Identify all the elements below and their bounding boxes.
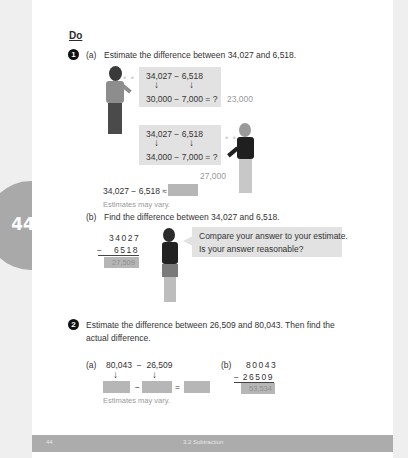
boy-rounded-expression: 30,000 − 7,000 = ? — [146, 94, 217, 104]
arrow-down-icon: ↓ — [113, 369, 118, 380]
q2a-estimate-box[interactable] — [184, 381, 210, 393]
estimates-note: Estimates may vary. — [103, 396, 170, 405]
arrow-down-icon: ↓ — [189, 79, 194, 90]
q2-prompt-line-2: actual difference. — [86, 333, 151, 343]
q1b-answer: 27,509 — [112, 258, 135, 267]
q1b-label: (b) — [86, 212, 96, 222]
footer-section-title: 3.2 Subtraction — [183, 439, 223, 445]
equals-sign: = — [175, 382, 180, 392]
estimate-equation: 34,027 − 6,518 ≈ — [103, 186, 167, 196]
q2b-answer: 53,534 — [249, 384, 272, 393]
arrow-down-icon: ↓ — [154, 137, 159, 148]
q1a-label: (a) — [86, 50, 96, 60]
q1a-prompt: Estimate the difference between 34,027 a… — [104, 50, 296, 60]
child-figure — [155, 228, 185, 304]
girl-answer: 27,000 — [200, 171, 226, 181]
side-tab-number: 44 — [8, 214, 38, 234]
section-heading: Do — [69, 30, 82, 41]
q2b-minuend: 80043 — [246, 360, 277, 370]
arrow-down-icon: ↓ — [152, 369, 157, 380]
estimates-note: Estimates may vary. — [103, 200, 170, 209]
girl-figure — [231, 123, 261, 195]
q2b-subtrahend: 26509 — [234, 372, 274, 383]
arrow-down-icon: ↓ — [189, 137, 194, 148]
q2-prompt-line-1: Estimate the difference between 26,509 a… — [86, 320, 335, 330]
speech-line-1: Compare your answer to your estimate. — [199, 231, 348, 241]
question-2-number: 2 — [68, 319, 79, 330]
q2b-label: (b) — [221, 360, 231, 370]
girl-rounded-expression: 34,000 − 7,000 = ? — [146, 152, 217, 162]
q1b-minuend: 34027 — [109, 233, 139, 243]
speech-bubble-tail — [183, 236, 193, 246]
minus-sign: − — [135, 382, 140, 392]
speech-line-2: Is your answer reasonable? — [199, 244, 303, 254]
q2a-label: (a) — [86, 360, 96, 370]
q1b-subtrahend: 6518 — [98, 245, 139, 256]
q2a-round-1-box[interactable] — [103, 381, 130, 393]
estimate-answer-box[interactable] — [168, 184, 198, 196]
thought-dots: • • — [123, 73, 135, 83]
q2a-round-2-box[interactable] — [142, 381, 172, 393]
footer-page-number: 44 — [46, 439, 53, 445]
boy-answer: 23,000 — [227, 94, 253, 104]
q1b-prompt: Find the difference between 34,027 and 6… — [104, 212, 280, 222]
arrow-down-icon: ↓ — [154, 79, 159, 90]
question-1-number: 1 — [68, 49, 79, 60]
